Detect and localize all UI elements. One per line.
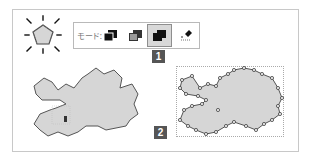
mode-label: モード:: [77, 30, 102, 41]
merged-shape-with-nodes[interactable]: [174, 64, 286, 139]
subtract-mode-icon: [129, 30, 143, 42]
subtract-mode-button[interactable]: [124, 24, 148, 47]
eraser-mode-icon: [179, 30, 193, 42]
intersect-mode-icon: [153, 30, 167, 42]
callout-badge-1: 1: [152, 50, 165, 63]
merged-shape-before: [30, 64, 142, 139]
pentagon-shape-tool-icon: [22, 14, 64, 56]
union-mode-button[interactable]: [99, 24, 123, 47]
union-mode-icon: [104, 30, 118, 42]
eraser-mode-button[interactable]: [174, 24, 198, 47]
callout-badge-2: 2: [154, 126, 167, 139]
cursor-icon: [64, 116, 67, 122]
mode-toolbar: モード:: [73, 22, 200, 49]
intersect-mode-button[interactable]: [147, 24, 172, 47]
